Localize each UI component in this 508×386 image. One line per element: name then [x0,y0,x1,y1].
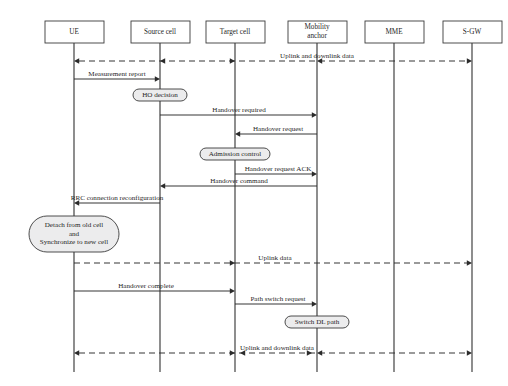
message-label-m5: Handover request ACK [245,165,312,173]
lane-label-sgw: S-GW [463,28,482,36]
message-label-m3: Handover required [212,106,266,114]
message-arrowhead-m8 [230,260,235,265]
lane-label-mme: MME [385,28,403,36]
message-arrowhead-m1 [467,58,472,63]
message-arrowhead-m3 [312,112,317,117]
activity-label-a3-2: Synchronize to new cell [40,238,108,246]
message-m3: Handover required [160,106,317,118]
lane-header-ue: UE [45,21,104,43]
message-arrowhead-m1 [160,58,165,63]
message-arrowhead-m11 [317,350,322,355]
message-label-m9: Handover complete [118,282,174,290]
message-arrowhead-m10 [312,301,317,306]
lane-header-mme: MME [365,21,424,43]
message-arrowhead-m11 [230,350,235,355]
message-label-m11: Uplink and downlink data [240,344,315,352]
message-arrowhead-m9 [230,288,235,293]
message-label-m7: RRC connection reconfiguration [71,194,164,202]
message-m9: Handover complete [74,282,235,294]
message-m11: Uplink and downlink data [74,344,472,356]
activity-a2: Admission control [200,148,270,160]
message-arrowhead-m5 [312,171,317,176]
activity-label-a1-0: HO decision [142,91,178,99]
message-label-m6: Handover command [210,177,268,185]
message-arrowhead-m8 [467,260,472,265]
lane-header-source: Source cell [131,21,190,43]
message-m6: Handover command [160,177,317,189]
message-m7: RRC connection reconfiguration [71,194,164,206]
message-arrowhead-m2 [155,76,160,81]
lane-label-source: Source cell [144,28,176,36]
activity-label-a3-0: Detach from old cell [45,221,104,229]
message-m10: Path switch request [235,295,317,307]
lane-header-sgw: S-GW [443,21,502,43]
lane-header-group: UESource cellTarget cellMobilityanchorMM… [45,21,502,43]
lane-label-ue: UE [69,28,79,36]
lane-label2-mobility: anchor [307,32,327,40]
message-m2: Measurement report [74,70,160,82]
sequence-diagram-canvas: UESource cellTarget cellMobilityanchorMM… [0,0,508,386]
message-label-m10: Path switch request [250,295,305,303]
message-arrowhead-m6 [160,183,165,188]
activity-a4: Switch DL path [285,316,349,328]
message-arrowhead-m11 [467,350,472,355]
message-label-m4: Handover request [253,125,303,133]
lane-header-mobility: Mobilityanchor [288,21,347,43]
message-label-m2: Measurement report [88,70,145,78]
message-label-m8: Uplink data [258,254,292,262]
message-m5: Handover request ACK [235,165,317,177]
message-arrowhead-m11 [74,350,79,355]
sequence-diagram-root: UESource cellTarget cellMobilityanchorMM… [0,0,508,386]
lane-label-target: Target cell [220,28,250,36]
message-arrowhead-m1 [230,58,235,63]
message-group: Uplink and downlink dataMeasurement repo… [71,52,472,356]
message-arrowhead-m4 [235,131,240,136]
lane-label-mobility: Mobility [304,23,330,31]
message-m4: Handover request [235,125,317,137]
message-m8: Uplink data [74,254,472,266]
activity-label-a3-1: and [69,230,80,238]
activity-a3: Detach from old cellandSynchronize to ne… [29,216,119,252]
lane-header-target: Target cell [206,21,265,43]
activity-label-a2-0: Admission control [209,150,262,158]
activity-a1: HO decision [133,89,187,101]
activity-label-a4-0: Switch DL path [295,318,340,326]
message-m1: Uplink and downlink data [74,52,472,64]
message-label-m1: Uplink and downlink data [280,52,355,60]
message-arrowhead-m1 [74,58,79,63]
